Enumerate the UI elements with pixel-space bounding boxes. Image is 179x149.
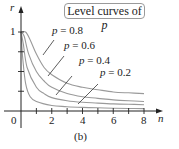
y-axis-label: r — [10, 1, 14, 13]
x-tick-label-2: 2 — [49, 114, 55, 126]
figure-caption: (b) — [74, 130, 87, 142]
legend-var: p — [102, 18, 108, 32]
x-tick-label-4: 4 — [80, 114, 86, 126]
curve-label-02: p = 0.2 — [100, 66, 131, 78]
x-tick-label-6: 6 — [111, 114, 117, 126]
x-axis-label: n — [158, 112, 164, 124]
level-curves-chart — [0, 0, 179, 149]
legend-text: Level curves of — [67, 4, 142, 18]
curve-label-04: p = 0.4 — [79, 54, 110, 66]
origin-label: 0 — [11, 114, 17, 126]
curve-label-06: p = 0.6 — [64, 39, 95, 51]
legend-box: Level curves of p — [64, 3, 145, 19]
curve-label-08: p = 0.8 — [52, 24, 83, 36]
x-tick-label-8: 8 — [141, 114, 147, 126]
y-tick-label-1: 1 — [10, 25, 16, 37]
axes — [4, 6, 163, 128]
